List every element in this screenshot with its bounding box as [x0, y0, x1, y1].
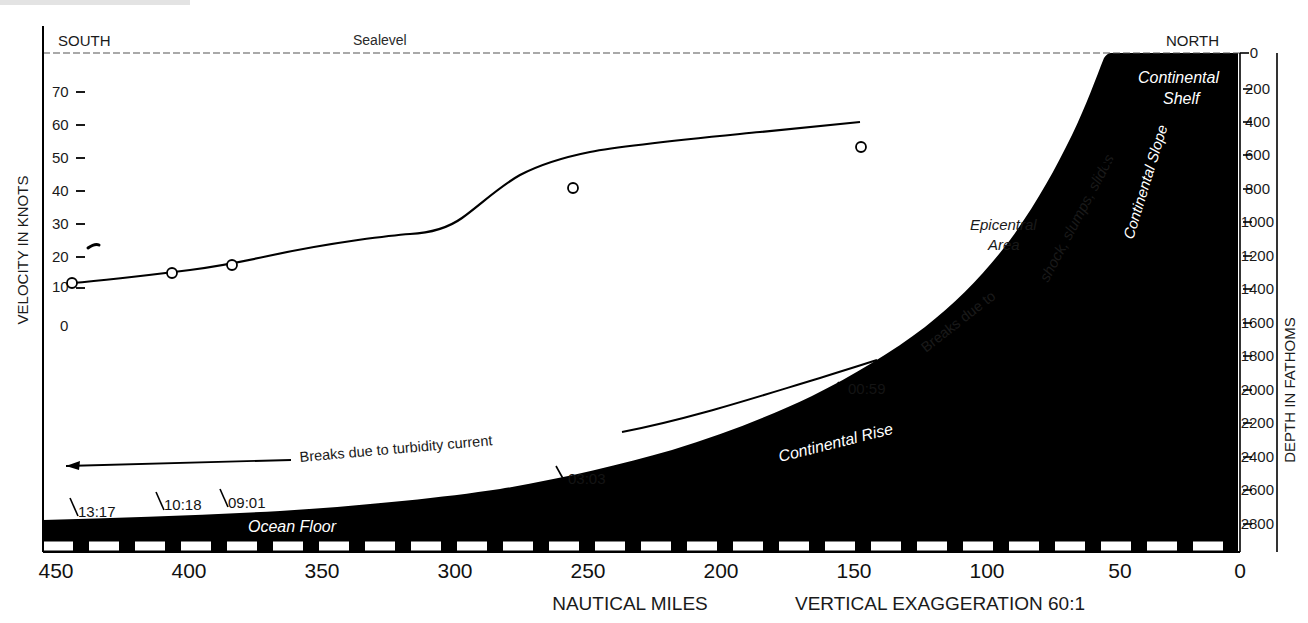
- velocity-tick-group: 70 60 50 40 30 20 10 0: [52, 83, 85, 334]
- break-time-label-1317: 13:17: [78, 503, 116, 520]
- scan-artifact: [0, 0, 190, 5]
- depth-tick-group: 0 200 400 600 800 1000 1200 1400 1600 18…: [1240, 44, 1274, 532]
- break-time-label-0303: 03:03: [568, 470, 606, 487]
- distance-tick-450: 450: [38, 559, 73, 582]
- velocity-tick-60: 60: [52, 116, 69, 133]
- distance-tick-group: 450 400 350 300 250 200 150 100 50 0: [38, 559, 1245, 582]
- depth-tick-0: 0: [1250, 44, 1258, 61]
- velocity-tick-50: 50: [52, 149, 69, 166]
- velocity-tick-40: 40: [52, 182, 69, 199]
- distance-tick-0: 0: [1234, 559, 1246, 582]
- epicentral-area-label-line2: Area: [987, 236, 1020, 253]
- seafloor-landmass: [43, 53, 1238, 552]
- velocity-curve: [72, 122, 860, 283]
- break-time-label-1018: 10:18: [164, 496, 202, 513]
- break-time-label-0059: 00:59: [848, 380, 886, 397]
- velocity-marker: [856, 142, 866, 152]
- turbidity-current-arrow: [66, 460, 291, 470]
- orientation-north: NORTH: [1166, 32, 1219, 49]
- distance-tick-200: 200: [703, 559, 738, 582]
- continental-shelf-label-line1: Continental: [1138, 69, 1219, 86]
- stray-tick-hook: [88, 244, 99, 248]
- profile-diagram: SOUTH NORTH Sealevel VELOCITY IN KNOTS 7…: [0, 0, 1308, 623]
- left-axis-title: VELOCITY IN KNOTS: [14, 176, 31, 325]
- velocity-marker: [67, 278, 77, 288]
- vertical-exaggeration-label: VERTICAL EXAGGERATION 60:1: [795, 593, 1085, 614]
- velocity-tick-30: 30: [52, 215, 69, 232]
- distance-tick-300: 300: [437, 559, 472, 582]
- figure-root: SOUTH NORTH Sealevel VELOCITY IN KNOTS 7…: [0, 0, 1308, 623]
- distance-tick-100: 100: [969, 559, 1004, 582]
- velocity-tick-10: 10: [52, 278, 69, 295]
- bottom-axis-title: NAUTICAL MILES: [552, 593, 708, 614]
- velocity-tick-20: 20: [52, 248, 69, 265]
- distance-tick-350: 350: [304, 559, 339, 582]
- orientation-south: SOUTH: [58, 32, 111, 49]
- ocean-floor-label: Ocean Floor: [248, 518, 337, 535]
- breaks-turbidity-label: Breaks due to turbidity current: [299, 432, 493, 465]
- break-time-label-0901: 09:01: [228, 494, 266, 511]
- distance-tick-400: 400: [171, 559, 206, 582]
- velocity-marker: [167, 268, 177, 278]
- velocity-marker: [568, 183, 578, 193]
- distance-tick-250: 250: [570, 559, 605, 582]
- distance-tick-50: 50: [1108, 559, 1131, 582]
- velocity-marker: [227, 260, 237, 270]
- continental-shelf-label-line2: Shelf: [1163, 90, 1201, 107]
- epicentral-area-label-line1: Epicentral: [970, 216, 1037, 233]
- sealevel-label: Sealevel: [353, 32, 407, 48]
- distance-tick-150: 150: [836, 559, 871, 582]
- velocity-tick-70: 70: [52, 83, 69, 100]
- velocity-tick-0: 0: [60, 317, 68, 334]
- right-axis-title: DEPTH IN FATHOMS: [1281, 317, 1298, 463]
